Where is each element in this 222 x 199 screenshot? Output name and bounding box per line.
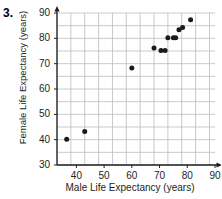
- x-tick-label: 40: [65, 170, 87, 181]
- axis-lines: [54, 6, 221, 168]
- data-point: [180, 25, 185, 30]
- y-tick-label: 80: [30, 32, 50, 43]
- y-tick-label: 50: [30, 108, 50, 119]
- x-tick-label: 90: [204, 170, 221, 181]
- data-point: [173, 35, 178, 40]
- y-tick-label: 40: [30, 134, 50, 145]
- scatter-plot-figure: 3. Female Life Expectancy (years) Male L…: [0, 0, 221, 199]
- x-tick-label: 70: [149, 170, 171, 181]
- data-point: [165, 35, 170, 40]
- x-tick-label: 60: [121, 170, 143, 181]
- y-tick-label: 90: [30, 7, 50, 18]
- data-point: [152, 45, 157, 50]
- x-tick-label: 50: [93, 170, 115, 181]
- data-point-series: [64, 17, 193, 141]
- data-point: [64, 137, 69, 142]
- gridlines: [57, 13, 215, 165]
- tick-marks: [54, 13, 215, 168]
- data-point: [188, 17, 193, 22]
- data-point: [82, 129, 87, 134]
- y-tick-label: 30: [30, 159, 50, 170]
- y-tick-label: 70: [30, 58, 50, 69]
- x-axis-arrow-icon: [217, 162, 222, 167]
- data-point: [129, 65, 134, 70]
- y-axis-arrow-icon: [54, 6, 59, 12]
- data-point: [163, 48, 168, 53]
- y-tick-label: 60: [30, 83, 50, 94]
- x-tick-label: 80: [176, 170, 198, 181]
